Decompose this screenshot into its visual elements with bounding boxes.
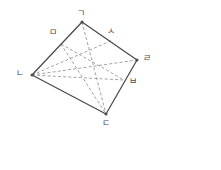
vertex-dot-b bbox=[31, 74, 34, 77]
dash-na-ra bbox=[32, 60, 137, 75]
edge-da-ra bbox=[106, 60, 137, 114]
dashed-segment-group bbox=[32, 22, 137, 114]
edge-ga-na bbox=[32, 22, 82, 75]
point-label-m: ㅁ bbox=[49, 28, 57, 37]
answer-row: ( ) bbox=[0, 133, 221, 163]
vertex-dot-group bbox=[31, 21, 139, 116]
vertex-label-d: ㄹ bbox=[143, 54, 151, 63]
vertex-label-c: ㄷ bbox=[102, 119, 110, 128]
vertex-dot-d bbox=[136, 59, 139, 62]
point-label-s: ㅅ bbox=[107, 27, 115, 36]
point-label-p: ㅂ bbox=[129, 77, 137, 86]
dash-ma-da bbox=[61, 44, 106, 114]
vertex-dot-a bbox=[81, 21, 84, 24]
dash-na-ba bbox=[32, 75, 124, 80]
dash-na-sa bbox=[32, 40, 113, 75]
vertex-label-b: ㄴ bbox=[16, 69, 24, 78]
vertex-label-a: ㄱ bbox=[77, 9, 85, 18]
dash-ma-ba bbox=[61, 44, 124, 80]
edge-na-da bbox=[32, 75, 106, 114]
vertex-dot-c bbox=[105, 113, 108, 116]
